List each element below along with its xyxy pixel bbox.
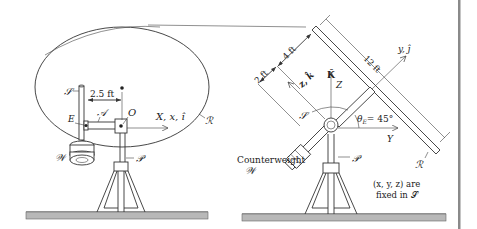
label-arm: 𝒜 xyxy=(97,107,110,118)
angle-value: = 45° xyxy=(367,114,393,124)
ground-left xyxy=(26,212,208,219)
connector-line xyxy=(148,25,306,27)
label-counterweight-symbol: 𝒲 xyxy=(245,165,258,176)
label-dim-12ft: 12 ft xyxy=(362,53,384,75)
label-dim-4ft: 4 ft xyxy=(280,44,298,62)
antenna-diagram: 𝒮 2.5 ft 𝒜 O E X, x, î ℛ 𝒲 𝒫 xyxy=(0,0,477,229)
pivot xyxy=(324,118,338,132)
label-counterweight-left: 𝒲 xyxy=(55,152,68,163)
label-angle: θE= 45° xyxy=(357,114,393,125)
label-reflector-right: ℛ xyxy=(415,159,424,170)
label-point-E: E xyxy=(67,114,75,124)
label-reflector-left: ℛ xyxy=(205,115,214,126)
label-pedestal-left: 𝒫 xyxy=(136,153,146,164)
label-dim-2ft: 2 ft xyxy=(252,68,270,86)
label-shaft-right: 𝒮 xyxy=(299,110,310,121)
label-point-O: O xyxy=(128,107,136,118)
label-pedestal-right: 𝒫 xyxy=(352,153,362,164)
label-axis-y: y, ĵ xyxy=(397,44,412,54)
label-axis-Y: Y xyxy=(387,134,394,144)
label-x-axis: X, x, î xyxy=(155,111,185,122)
shaft-left xyxy=(79,85,84,140)
pedestal-left xyxy=(97,133,145,212)
arm-left xyxy=(86,122,117,129)
counterweight-left xyxy=(70,141,94,165)
label-dimension-2-5ft: 2.5 ft xyxy=(90,89,115,99)
ground-right xyxy=(242,214,446,221)
label-shaft-left: 𝒮 xyxy=(64,86,75,97)
left-view: 𝒮 2.5 ft 𝒜 O E X, x, î ℛ 𝒲 𝒫 xyxy=(26,26,214,219)
label-axis-Z: Z xyxy=(335,80,343,90)
note-line-2: fixed in 𝒮 xyxy=(376,190,419,200)
right-view: 2 ft 4 ft 12 ft y, ĵ z, k̂ K̂ Z Y 𝒮 θE= … xyxy=(237,15,450,221)
label-axis-z: z, k̂ xyxy=(294,69,316,91)
page-margin-rule xyxy=(458,0,461,229)
note-line-1: (x, y, z) are xyxy=(373,179,420,189)
label-counterweight-text: Counterweight xyxy=(237,155,306,165)
label-axis-K: K̂ xyxy=(327,69,336,80)
